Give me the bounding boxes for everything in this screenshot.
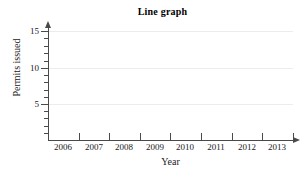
x-tick-label-2011: 2011	[199, 142, 233, 152]
data-series-layer	[48, 31, 293, 140]
x-axis-title: Year	[48, 156, 293, 167]
x-tick-label-2006: 2006	[46, 142, 80, 152]
x-axis-arrow-icon	[293, 137, 300, 143]
plot-area: 5 10 15 2006 2007 2008 2009 2010 2011 20…	[0, 0, 305, 181]
x-tick-label-2007: 2007	[77, 142, 111, 152]
x-tick	[293, 133, 294, 141]
x-axis-line	[48, 140, 294, 141]
x-tick-label-2010: 2010	[168, 142, 202, 152]
y-axis-arrow-icon	[45, 21, 51, 28]
line-graph-figure: Line graph 5 10 15	[0, 0, 305, 181]
x-tick-label-2012: 2012	[230, 142, 264, 152]
x-tick-label-2013: 2013	[260, 142, 294, 152]
x-tick-label-2009: 2009	[138, 142, 172, 152]
x-tick-label-2008: 2008	[107, 142, 141, 152]
y-axis-title: Permits issued	[11, 18, 22, 118]
